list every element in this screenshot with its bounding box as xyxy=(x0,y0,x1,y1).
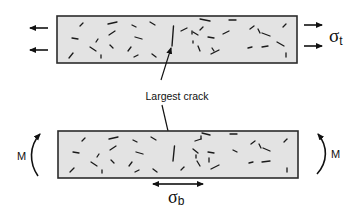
sigma-t-label: σt xyxy=(329,25,343,48)
moment-arrow-right xyxy=(317,134,325,174)
bending-specimen: M M σb xyxy=(17,131,340,208)
sigma-b-label: σb xyxy=(168,187,185,208)
largest-crack-label: Largest crack xyxy=(145,90,209,102)
moment-label-left: M xyxy=(17,150,26,162)
diagram-canvas: σt Largest crack xyxy=(0,0,356,214)
moment-label-right: M xyxy=(331,148,340,160)
bending-beam xyxy=(58,131,298,178)
tension-specimen: σt xyxy=(30,16,343,63)
tension-beam xyxy=(57,16,297,63)
moment-arrow-left xyxy=(31,134,40,176)
